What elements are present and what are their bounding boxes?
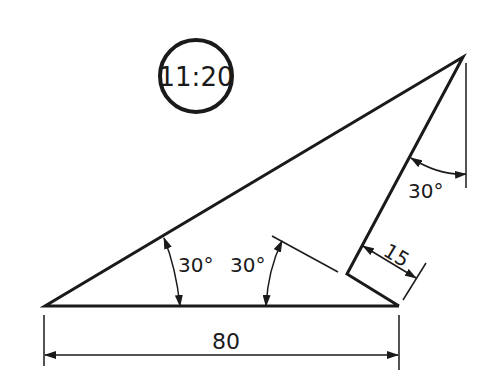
inner-angle-label: 30° <box>230 253 265 277</box>
technical-drawing: 11:20 30° 30° 30° 15 80 <box>0 0 490 392</box>
problem-number: 11:20 <box>159 62 234 92</box>
inner-angle-annotation <box>266 236 338 306</box>
offset-label: 15 <box>380 239 414 273</box>
apex-angle-label: 30° <box>408 179 443 203</box>
left-angle-label: 30° <box>178 253 213 277</box>
problem-number-badge: 11:20 <box>159 40 234 112</box>
base-length-label: 80 <box>212 329 240 354</box>
